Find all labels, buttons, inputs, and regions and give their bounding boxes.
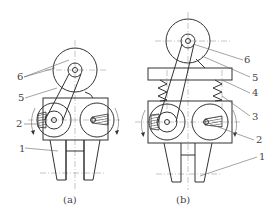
label-4-b: 4 xyxy=(252,87,258,98)
gripper-mechanism-diagram: 6 5 2 1 (a) xyxy=(0,0,275,221)
plate-4 xyxy=(148,68,232,80)
label-3-b: 3 xyxy=(252,111,258,122)
caption-a: (a) xyxy=(63,194,77,205)
caption-b: (b) xyxy=(176,194,190,205)
subfigure-a: 6 5 2 1 (a) xyxy=(16,40,120,205)
label-2-a: 2 xyxy=(16,118,22,129)
label-5-b: 5 xyxy=(252,72,258,83)
label-5-a: 5 xyxy=(18,92,24,103)
label-6-b: 6 xyxy=(244,54,250,65)
label-6-a: 6 xyxy=(17,71,23,82)
label-1-a: 1 xyxy=(19,143,25,154)
label-1-b: 1 xyxy=(259,151,265,162)
subfigure-b: 6 5 4 3 2 1 (b) xyxy=(135,12,265,205)
label-2-b: 2 xyxy=(256,134,262,145)
